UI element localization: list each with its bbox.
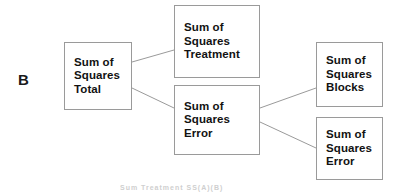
- node-error-mid-line-3: Error: [175, 127, 259, 141]
- node-error-mid-line-2: Squares: [175, 113, 259, 127]
- node-sum-of-squares-error-right[interactable]: Sum of Squares Error: [316, 117, 383, 180]
- node-total-line-2: Squares: [65, 69, 131, 83]
- bottom-caption-fragment: Sum Treatment SS(A)(B): [120, 184, 330, 192]
- figure-canvas: B Sum of Squares Total Sum of Squares Tr…: [0, 0, 393, 193]
- node-total-line-1: Sum of: [65, 56, 131, 70]
- node-sum-of-squares-treatment[interactable]: Sum of Squares Treatment: [174, 5, 260, 78]
- node-treatment-line-1: Sum of: [175, 21, 259, 35]
- node-blocks-line-2: Squares: [317, 68, 382, 82]
- node-blocks-line-1: Sum of: [317, 54, 382, 68]
- edge-total-to-treatment: [132, 50, 174, 62]
- node-error-mid-line-1: Sum of: [175, 100, 259, 114]
- node-total-line-3: Total: [65, 83, 131, 97]
- node-error-right-line-2: Squares: [317, 142, 382, 156]
- node-error-right-line-1: Sum of: [317, 128, 382, 142]
- edge-error-to-blocks: [260, 88, 316, 108]
- edge-total-to-error: [132, 88, 174, 108]
- node-treatment-line-3: Treatment: [175, 48, 259, 62]
- node-sum-of-squares-blocks[interactable]: Sum of Squares Blocks: [316, 42, 383, 107]
- edge-error-to-error: [260, 122, 316, 148]
- node-blocks-line-3: Blocks: [317, 81, 382, 95]
- panel-label-b: B: [18, 72, 29, 87]
- node-treatment-line-2: Squares: [175, 35, 259, 49]
- node-sum-of-squares-total[interactable]: Sum of Squares Total: [64, 42, 132, 110]
- node-error-right-line-3: Error: [317, 155, 382, 169]
- node-sum-of-squares-error-middle[interactable]: Sum of Squares Error: [174, 85, 260, 155]
